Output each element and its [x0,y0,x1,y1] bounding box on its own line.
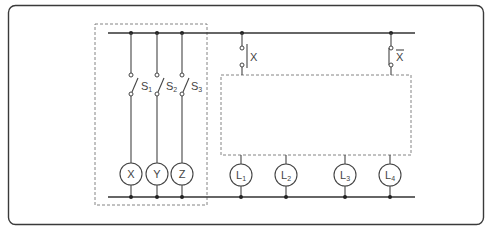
switch-label-s2: S2 [166,80,177,93]
relay-coil-z: Z [171,163,193,199]
contact-label-x-bar: X [396,51,404,63]
contact-x-bar-normally-closed: X [389,31,404,75]
junction-node [239,195,243,199]
switch-blade [158,78,164,92]
switch-label-s1: S1 [141,80,152,93]
logic-block-box [221,75,411,155]
outer-frame [9,6,484,225]
lamp-l1: L1 [230,155,252,199]
switch-blade [132,78,138,92]
relay-coil-x: X [120,163,142,199]
junction-node [129,195,133,199]
junction-node [388,195,392,199]
switch-terminal [155,73,159,77]
switch-terminal [180,73,184,77]
relay-coil-y: Y [146,163,168,199]
contact-label-x: X [250,51,258,63]
switch-terminal [129,92,133,96]
switch-terminal [129,73,133,77]
relay-label-z: Z [179,168,186,180]
junction-node [343,195,347,199]
circuit-diagram: S1 S2 S3 X Y Z [0,0,490,227]
junction-node [155,195,159,199]
switch-column-s2: S2 [155,31,177,163]
switch-column-s3: S3 [180,31,202,163]
switch-label-s3: S3 [191,80,202,93]
junction-node [284,195,288,199]
lamp-l2: L2 [275,155,297,199]
switch-blade [183,78,189,92]
junction-node [180,195,184,199]
relay-label-y: Y [153,168,161,180]
switch-column-s1: S1 [129,31,152,163]
lamp-l3: L3 [334,155,356,199]
switch-terminal [180,92,184,96]
relay-label-x: X [127,168,135,180]
contact-x-normally-open: X [240,31,258,75]
lamp-l4: L4 [379,155,401,199]
switch-terminal [155,92,159,96]
